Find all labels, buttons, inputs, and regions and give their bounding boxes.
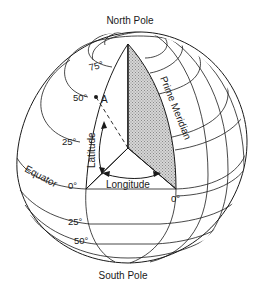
latitude-tick-75: 75° — [88, 59, 105, 73]
point-a-marker — [94, 95, 98, 99]
latitude-tick-50: 50° — [73, 92, 88, 103]
point-a-label: A — [101, 94, 108, 105]
latitude-tick-s25: 25° — [68, 216, 83, 227]
longitude-tick-prime: 0° — [171, 193, 180, 204]
longitude-label: Longitude — [106, 179, 150, 190]
latitude-label: Latitude — [86, 132, 97, 168]
latitude-tick-equator: 0° — [68, 180, 77, 191]
south-pole-label: South Pole — [99, 270, 148, 281]
latitude-tick-s50: 50° — [74, 235, 89, 246]
north-pole-label: North Pole — [106, 15, 154, 26]
equator-label: Equator — [23, 163, 60, 189]
longitude-arc — [102, 171, 161, 179]
latitude-tick-25: 25° — [62, 136, 77, 147]
globe-diagram: North Pole South Pole 75° 50° 25° 0° 25°… — [0, 0, 261, 293]
